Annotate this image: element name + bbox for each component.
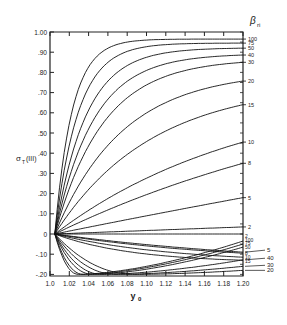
x-tick-label: 1.16 — [198, 280, 211, 287]
x-tick-label: 1.12 — [159, 280, 172, 287]
curve-label-outer-40: 40 — [267, 255, 274, 261]
x-tick-label: 1.04 — [82, 280, 95, 287]
leader-line — [245, 265, 265, 266]
curve-upper-5 — [55, 198, 243, 234]
y-tick-label: 0 — [43, 231, 47, 238]
x-tick-label: 1.14 — [179, 280, 192, 287]
curve-label-10: 10 — [248, 139, 254, 145]
curve-upper-100 — [55, 39, 243, 234]
curve-label-30: 30 — [248, 59, 254, 65]
x-axis-label: y — [130, 291, 135, 301]
x-tick-label: 1.08 — [121, 280, 134, 287]
curve-label-50: 50 — [248, 45, 254, 51]
x-tick-label: 1.10 — [140, 280, 153, 287]
y-tick-label: .70 — [38, 89, 47, 96]
x-tick-label: 1.02 — [63, 280, 76, 287]
y-tick-label: .20 — [38, 190, 47, 197]
curve-label-2: 2 — [248, 224, 251, 230]
y-axis-label-suffix: (III) — [26, 155, 37, 163]
y-tick-label: .90 — [38, 49, 47, 56]
y-tick-label: .50 — [38, 130, 47, 137]
curve-label-outer-5: 5 — [267, 247, 271, 253]
curve-upper-15 — [55, 105, 243, 234]
y-tick-label: .40 — [38, 150, 47, 157]
curve-label-5: 5 — [248, 195, 251, 201]
x-tick-label: 1.0 — [45, 280, 54, 287]
x-tick-label: 1.06 — [102, 280, 115, 287]
y-tick-label: .10 — [38, 210, 47, 217]
y-tick-label: 1.00 — [34, 29, 47, 36]
y-tick-label: .60 — [38, 109, 47, 116]
curve-label-outer-20: 20 — [267, 267, 274, 273]
curve-label-20: 20 — [248, 78, 254, 84]
y-tick-label: .80 — [38, 69, 47, 76]
curve-label-8: 8 — [248, 160, 251, 166]
y-tick-label: -.10 — [36, 251, 48, 258]
y-tick-label: .30 — [38, 170, 47, 177]
curve-upper-40 — [55, 55, 243, 234]
chart-figure: 1.00.90.80.70.60.50.40.30.20.100-.10-.20… — [0, 0, 287, 325]
curve-label-lower-50: 50 — [245, 244, 251, 250]
x-tick-label: 1.18 — [217, 280, 230, 287]
curve-label-40: 40 — [248, 52, 254, 58]
curve-upper-8 — [55, 163, 243, 234]
y-tick-label: -.20 — [36, 271, 48, 278]
curve-upper-75 — [55, 43, 243, 234]
legend-title-subscript: ri — [257, 22, 260, 28]
leader-line — [245, 250, 265, 252]
y-axis-label: σ — [16, 154, 21, 163]
x-tick-label: 1.20 — [237, 280, 250, 287]
curve-upper-30 — [55, 62, 243, 234]
y-axis-label-subscript: T — [22, 159, 25, 165]
legend-title: β — [249, 15, 256, 26]
curve-label-15: 15 — [248, 102, 254, 108]
x-axis-label-subscript: 0 — [138, 296, 142, 302]
